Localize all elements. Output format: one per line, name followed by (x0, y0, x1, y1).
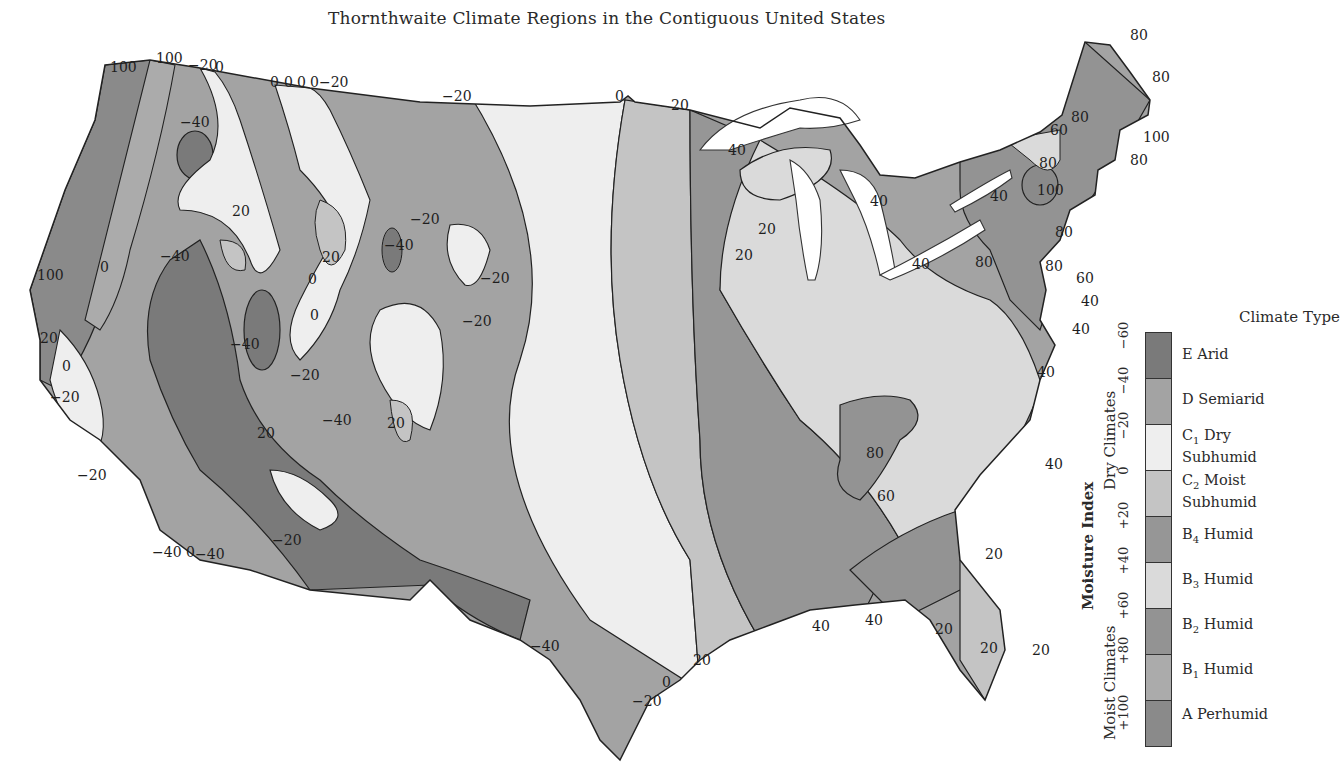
contour-label: 100 (156, 50, 183, 66)
contour-label: 80 (1045, 258, 1063, 274)
contour-label: −20 (290, 367, 320, 383)
group-moist-label: Moist Climates (1101, 625, 1119, 740)
contour-label: 40 (1037, 364, 1055, 380)
contour-label: 20 (40, 330, 58, 346)
legend-swatch (1145, 332, 1172, 379)
contour-label: −40 (384, 237, 414, 253)
contour-label: 0 (186, 544, 195, 560)
contour-label: 20 (935, 621, 953, 637)
contour-label: −20 (188, 57, 218, 73)
contour-label: 40 (912, 256, 930, 272)
contour-label: −40 (195, 546, 225, 562)
contour-label: 20 (1032, 642, 1050, 658)
contour-label: −40 (322, 412, 352, 428)
legend-tick: −60 (1116, 321, 1131, 351)
contour-label: 80 (1130, 27, 1148, 43)
contour-label: 0 (215, 59, 224, 75)
contour-label: 100 (110, 59, 137, 75)
legend-swatch (1145, 471, 1172, 517)
contour-label: 40 (1045, 456, 1063, 472)
legend-tick: +40 (1116, 546, 1131, 576)
contour-label: 20 (257, 425, 275, 441)
contour-label: 40 (812, 618, 830, 634)
contour-label: 0 (62, 358, 71, 374)
contour-label: 20 (387, 415, 405, 431)
contour-label: 0 (615, 88, 624, 104)
legend-swatch (1145, 655, 1172, 701)
legend-item-label: B3 Humid (1182, 571, 1253, 593)
contour-label: 80 (975, 254, 993, 270)
contour-label: −20 (442, 88, 472, 104)
legend-swatch (1145, 563, 1172, 609)
contour-label: 0 (270, 74, 279, 90)
contour-label: −20 (462, 313, 492, 329)
legend-tick: +60 (1116, 591, 1131, 621)
contour-label: 80 (866, 445, 884, 461)
contour-label: −40 (180, 114, 210, 130)
axis-title: Moisture Index (1079, 482, 1097, 610)
contour-label: 0−20 (310, 74, 348, 90)
contour-label: 100 (1143, 129, 1170, 145)
contour-label: 80 (1152, 69, 1170, 85)
legend: Climate Type E AridD SemiaridC1 DrySubhu… (1075, 300, 1307, 770)
contour-label: −20 (77, 467, 107, 483)
contour-label: 40 (990, 188, 1008, 204)
group-dry-label: Dry Climates (1101, 391, 1119, 490)
legend-swatch (1145, 517, 1172, 563)
legend-swatch (1145, 609, 1172, 655)
legend-item-label: B1 Humid (1182, 661, 1253, 683)
contour-label: 100 (1037, 182, 1064, 198)
legend-swatches (1145, 332, 1172, 747)
contour-label: 20 (671, 97, 689, 113)
contour-label: 40 (870, 193, 888, 209)
contour-label: 80 (1071, 109, 1089, 125)
legend-item-label: B2 Humid (1182, 616, 1253, 638)
contour-label: −40 (230, 336, 260, 352)
contour-label: 0 (100, 259, 109, 275)
legend-swatch (1145, 425, 1172, 471)
contour-label: 60 (877, 488, 895, 504)
contour-label: 20 (232, 203, 250, 219)
contour-label: 100 (37, 267, 64, 283)
contour-label: 60 (1076, 270, 1094, 286)
legend-item-label: C1 DrySubhumid (1182, 427, 1257, 466)
contour-label: 20 (985, 546, 1003, 562)
contour-label: 80 (1055, 224, 1073, 240)
legend-swatch (1145, 701, 1172, 747)
contour-label: 20 (980, 640, 998, 656)
contour-label: 80 (1039, 155, 1057, 171)
legend-item-label: A Perhumid (1182, 706, 1268, 723)
contour-label: 0 (308, 271, 317, 287)
legend-item-label: C2 MoistSubhumid (1182, 472, 1257, 511)
contour-label: 0 (284, 74, 293, 90)
contour-label: 0 (310, 307, 319, 323)
contour-label: −20 (410, 211, 440, 227)
contour-label: −20 (50, 389, 80, 405)
contour-label: 20 (735, 247, 753, 263)
contour-label: 0 (297, 74, 306, 90)
legend-title: Climate Type (1239, 308, 1340, 326)
contour-label: 40 (728, 142, 746, 158)
legend-item-label: D Semiarid (1182, 391, 1265, 408)
legend-item-label: B4 Humid (1182, 526, 1253, 548)
contour-label: 0 (662, 674, 671, 690)
contour-label: 20 (693, 652, 711, 668)
legend-swatch (1145, 379, 1172, 425)
contour-label: −40 (160, 248, 190, 264)
legend-item-label: E Arid (1182, 346, 1229, 363)
contour-label: −20 (272, 532, 302, 548)
contour-label: 60 (1050, 122, 1068, 138)
contour-label: 20 (758, 221, 776, 237)
contour-label: 20 (322, 249, 340, 265)
contour-label: 80 (1130, 152, 1148, 168)
contour-label: 40 (865, 612, 883, 628)
contour-label: −20 (480, 270, 510, 286)
legend-tick: +20 (1116, 501, 1131, 531)
contour-label: −40 (530, 638, 560, 654)
contour-label: −20 (632, 693, 662, 709)
contour-label: −40 (152, 544, 182, 560)
